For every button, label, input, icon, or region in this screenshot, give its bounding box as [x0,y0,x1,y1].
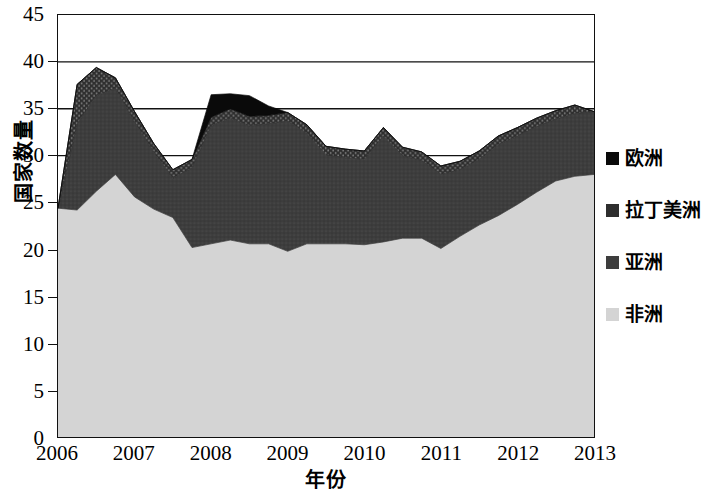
legend-swatch-icon [606,152,619,165]
x-tick-label: 2006 [36,441,78,465]
y-tick-mark [48,250,57,251]
legend-item[interactable]: 拉丁美洲 [606,184,712,236]
y-tick-mark [48,202,57,203]
y-tick-label: 45 [23,4,44,25]
plot-svg [58,15,594,437]
legend-label: 拉丁美洲 [625,201,701,220]
chart-legend: 欧洲拉丁美洲亚洲非洲 [606,132,712,340]
x-tick-label: 2010 [343,441,385,465]
y-tick-label: 10 [23,333,44,354]
y-tick-label: 5 [34,380,45,401]
legend-label: 非洲 [625,305,663,324]
legend-label: 欧洲 [625,149,663,168]
legend-swatch-icon [606,256,619,269]
legend-item[interactable]: 非洲 [606,288,712,340]
y-tick-mark [48,391,57,392]
y-tick-label: 15 [23,286,44,307]
legend-label: 亚洲 [625,253,663,272]
y-tick-label: 40 [23,51,44,72]
x-tick-label: 2012 [497,441,539,465]
y-tick-mark [48,61,57,62]
legend-item[interactable]: 欧洲 [606,132,712,184]
legend-swatch-icon [606,204,619,217]
x-tick-label: 2008 [190,441,232,465]
plot-area [57,14,595,438]
y-tick-mark [48,108,57,109]
y-tick-mark [48,297,57,298]
legend-swatch-icon [606,308,619,321]
y-tick-mark [48,155,57,156]
area-series-group [58,68,594,437]
x-tick-label: 2009 [267,441,309,465]
x-axis-title: 年份 [57,464,595,493]
y-axis-title: 国家数量 [8,76,37,246]
x-tick-label: 2013 [574,441,616,465]
legend-item[interactable]: 亚洲 [606,236,712,288]
x-tick-label: 2007 [113,441,155,465]
x-tick-label: 2011 [421,441,462,465]
y-tick-mark [48,344,57,345]
